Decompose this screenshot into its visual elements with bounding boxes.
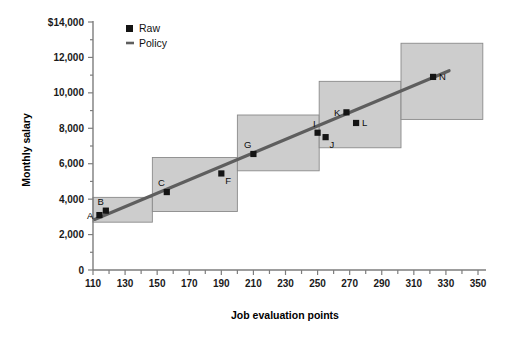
data-point-N	[430, 74, 436, 80]
scatter-plot-svg: 02,0004,0006,0008,00010,00012,000$14,000…	[0, 0, 509, 340]
x-tick-label-330: 330	[438, 278, 455, 289]
legend-label-raw: Raw	[139, 22, 160, 34]
x-tick-label-210: 210	[245, 278, 262, 289]
data-point-G	[250, 151, 256, 157]
data-point-C	[164, 189, 170, 195]
x-tick-label-110: 110	[85, 278, 102, 289]
y-tick-label-8000: 8,000	[59, 123, 84, 134]
data-point-I	[314, 130, 320, 136]
legend-marker-raw	[126, 25, 133, 32]
y-tick-label-14000: $14,000	[48, 17, 85, 28]
x-tick-label-310: 310	[405, 278, 422, 289]
data-point-F	[218, 170, 224, 176]
x-tick-label-130: 130	[117, 278, 134, 289]
data-point-label-G: G	[244, 139, 251, 150]
y-tick-label-4000: 4,000	[59, 194, 84, 205]
data-point-label-L: L	[362, 117, 367, 128]
x-tick-label-250: 250	[309, 278, 326, 289]
x-tick-label-290: 290	[373, 278, 390, 289]
chart-container: 02,0004,0006,0008,00010,00012,000$14,000…	[0, 0, 509, 340]
data-point-label-A: A	[87, 210, 94, 221]
x-tick-label-270: 270	[341, 278, 358, 289]
x-tick-label-150: 150	[149, 278, 166, 289]
data-point-label-J: J	[330, 139, 335, 150]
x-tick-label-170: 170	[181, 278, 198, 289]
data-point-label-F: F	[225, 175, 231, 186]
x-tick-label-230: 230	[277, 278, 294, 289]
data-point-K	[343, 109, 349, 115]
data-point-label-N: N	[439, 71, 446, 82]
data-point-label-B: B	[97, 196, 103, 207]
data-point-label-K: K	[334, 107, 341, 118]
y-axis-title: Monthly salary	[20, 113, 32, 187]
data-point-A	[96, 212, 102, 218]
y-tick-label-2000: 2,000	[59, 229, 84, 240]
y-tick-label-12000: 12,000	[53, 52, 84, 63]
data-point-J	[323, 134, 329, 140]
y-tick-label-0: 0	[78, 265, 84, 276]
data-point-label-C: C	[158, 177, 165, 188]
data-point-L	[353, 120, 359, 126]
legend-label-policy: Policy	[139, 37, 168, 49]
grade-box-4	[319, 81, 401, 147]
data-point-B	[103, 208, 109, 214]
data-point-label-I: I	[313, 118, 316, 129]
x-axis-title: Job evaluation points	[231, 309, 339, 321]
y-tick-label-10000: 10,000	[53, 87, 84, 98]
chart-legend: RawPolicy	[126, 22, 168, 49]
y-tick-label-6000: 6,000	[59, 158, 84, 169]
x-tick-label-350: 350	[470, 278, 487, 289]
x-tick-label-190: 190	[213, 278, 230, 289]
